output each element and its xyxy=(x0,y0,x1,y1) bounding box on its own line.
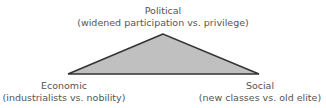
node-economic-subtitle: (industrialists vs. nobility) xyxy=(0,92,128,104)
node-economic-title: Economic xyxy=(0,80,128,92)
node-political-subtitle: (widened participation vs. privilege) xyxy=(63,17,263,29)
node-political-title: Political xyxy=(63,5,263,17)
node-social-title: Social xyxy=(196,80,324,92)
node-social-subtitle: (new classes vs. old elite) xyxy=(196,92,324,104)
node-political: Political (widened participation vs. pri… xyxy=(63,5,263,29)
node-economic: Economic (industrialists vs. nobility) xyxy=(0,80,128,104)
node-social: Social (new classes vs. old elite) xyxy=(196,80,324,104)
triangle-shape xyxy=(68,34,259,74)
